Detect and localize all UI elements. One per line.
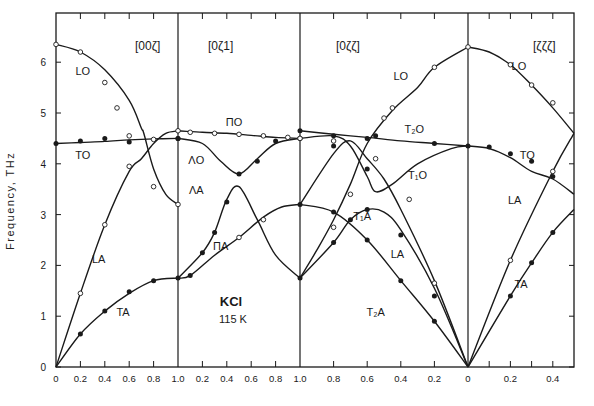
- curve-label: LO: [393, 70, 408, 82]
- open-circle-marker: [237, 235, 242, 240]
- x-tick-label: 0.6: [361, 373, 374, 384]
- filled-circle-marker: [432, 141, 437, 146]
- open-circle-marker: [432, 65, 437, 70]
- open-circle-marker: [103, 80, 108, 85]
- x-tick-label: 0.4: [220, 373, 233, 384]
- open-circle-marker: [176, 128, 181, 133]
- curve-to: [56, 138, 178, 143]
- curve-label: ΛO: [188, 154, 204, 166]
- filled-circle-marker: [331, 210, 336, 215]
- filled-circle-marker: [78, 138, 83, 143]
- curve-label: TA: [514, 278, 528, 290]
- x-tick-label: 0.4: [394, 373, 407, 384]
- x-tick-label: 0.2: [196, 373, 209, 384]
- section-label-0z1: [0ζ1]: [208, 39, 233, 53]
- filled-circle-marker: [188, 273, 193, 278]
- filled-circle-marker: [365, 166, 370, 171]
- curve-label: ΠA: [213, 240, 229, 252]
- x-tick-label: 0.6: [245, 373, 258, 384]
- curve-label: ΠO: [226, 116, 243, 128]
- filled-circle-marker: [529, 260, 534, 265]
- y-tick-label: 4: [40, 159, 46, 170]
- curve-label: LA: [391, 248, 405, 260]
- filled-circle-marker: [127, 139, 132, 144]
- open-circle-marker: [212, 131, 217, 136]
- filled-circle-marker: [331, 144, 336, 149]
- open-circle-marker: [390, 106, 395, 111]
- filled-circle-marker: [102, 309, 107, 314]
- curve-label: LO: [512, 60, 527, 72]
- curve-label: LO: [75, 65, 90, 77]
- filled-circle-marker: [176, 136, 181, 141]
- filled-circle-marker: [224, 199, 229, 204]
- open-circle-marker: [466, 45, 471, 50]
- curve-label: TA: [116, 306, 130, 318]
- curve-label: T₁A: [353, 210, 371, 222]
- open-circle-marker: [382, 116, 387, 121]
- curve-label: TO: [520, 149, 536, 161]
- open-circle-marker: [115, 106, 120, 111]
- curve-label: T₁O: [408, 169, 427, 181]
- dispersion-curves: [56, 44, 574, 367]
- filled-circle-marker: [298, 202, 303, 207]
- filled-circle-marker: [102, 136, 107, 141]
- filled-circle-marker: [78, 331, 83, 336]
- x-tick-label: 0.2: [74, 373, 87, 384]
- curve-t2a: [300, 204, 468, 367]
- open-circle-marker: [261, 134, 266, 139]
- curve-label: LA: [508, 194, 522, 206]
- filled-circle-marker: [365, 238, 370, 243]
- open-circle-marker: [286, 135, 291, 140]
- x-tick-label: 0.4: [98, 373, 111, 384]
- axis-ticks: 012345600.20.40.60.81.00.20.40.60.81.00.…: [40, 13, 574, 384]
- curve-lo: [56, 44, 178, 204]
- x-tick-label: 0: [53, 373, 58, 384]
- curve-t2o: [300, 131, 468, 146]
- open-circle-marker: [348, 192, 353, 197]
- filled-circle-marker: [237, 171, 242, 176]
- open-circle-marker: [529, 83, 534, 88]
- open-circle-marker: [127, 164, 132, 169]
- y-tick-label: 3: [40, 210, 46, 221]
- open-circle-marker: [78, 50, 83, 55]
- open-circle-marker: [151, 137, 156, 142]
- section-label-00z: [00ζ]: [135, 39, 160, 53]
- x-tick-label: 0.6: [123, 373, 136, 384]
- curve-label: TO: [75, 149, 91, 161]
- y-tick-label: 2: [40, 260, 46, 271]
- open-circle-marker: [78, 291, 83, 296]
- phonon-dispersion-chart: 012345600.20.40.60.81.00.20.40.60.81.00.…: [0, 0, 594, 406]
- curve-ta: [56, 278, 178, 367]
- open-circle-marker: [127, 134, 132, 139]
- filled-circle-marker: [398, 278, 403, 283]
- section-label-0zz: [0ζζ]: [336, 39, 360, 53]
- filled-circle-marker: [200, 250, 205, 255]
- filled-circle-marker: [432, 319, 437, 324]
- filled-circle-marker: [550, 174, 555, 179]
- filled-circle-marker: [212, 230, 217, 235]
- filled-circle-marker: [348, 217, 353, 222]
- open-circle-marker: [551, 101, 556, 106]
- filled-circle-marker: [255, 159, 260, 164]
- curve-πa: [178, 204, 300, 278]
- temperature-label: 115 K: [219, 313, 248, 325]
- filled-circle-marker: [298, 128, 303, 133]
- open-circle-marker: [508, 258, 513, 263]
- curve-label: LA: [92, 253, 106, 265]
- filled-circle-marker: [176, 276, 181, 281]
- open-circle-marker: [176, 202, 181, 207]
- x-tick-label: 1.0: [293, 373, 306, 384]
- open-circle-marker: [261, 217, 266, 222]
- open-circle-marker: [188, 130, 193, 135]
- open-circle-marker: [151, 184, 156, 189]
- open-circle-marker: [54, 42, 59, 47]
- x-tick-label: 0.2: [504, 373, 517, 384]
- filled-circle-marker: [365, 136, 370, 141]
- x-tick-label: 0.8: [147, 373, 160, 384]
- y-tick-label: 1: [40, 311, 46, 322]
- y-tick-label: 5: [40, 108, 46, 119]
- filled-circle-marker: [331, 240, 336, 245]
- curve-labels: LOTOLATAΠOΛOΛAΠALOT₂OT₁OT₁ALAT₂ALOTOLATA: [75, 60, 535, 318]
- filled-circle-marker: [331, 133, 336, 138]
- x-tick-label: 0.2: [428, 373, 441, 384]
